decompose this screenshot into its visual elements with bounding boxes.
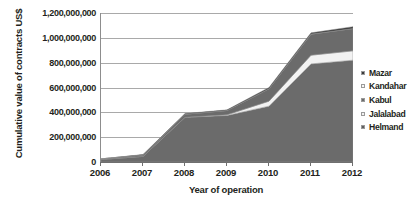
x-axis-tick bbox=[184, 162, 185, 166]
y-axis-tick-label: 0 bbox=[8, 157, 96, 167]
legend-item-label: Kabul bbox=[369, 95, 391, 105]
y-axis-tick-label: 800,000,000 bbox=[8, 58, 96, 68]
legend-item-jalalabad[interactable]: Jalalabad bbox=[361, 107, 417, 121]
y-axis-tick-label: 600,000,000 bbox=[8, 83, 96, 93]
x-axis-title: Year of operation bbox=[100, 184, 352, 195]
y-axis-tick-label: 400,000,000 bbox=[8, 107, 96, 117]
x-axis-tick bbox=[100, 162, 101, 166]
legend-swatch-icon bbox=[361, 125, 365, 129]
x-axis-tick bbox=[226, 162, 227, 166]
y-axis-tick-labels: 0200,000,000400,000,000600,000,000800,00… bbox=[8, 0, 96, 219]
y-axis-tick-label: 200,000,000 bbox=[8, 132, 96, 142]
area-series-layer bbox=[101, 13, 353, 162]
legend-item-label: Kandahar bbox=[369, 81, 406, 91]
legend-swatch-icon bbox=[361, 98, 365, 102]
legend-item-label: Jalalabad bbox=[369, 109, 405, 119]
y-axis-tick-label: 1,200,000,000 bbox=[8, 8, 96, 18]
x-axis-tick bbox=[310, 162, 311, 166]
legend-item-kandahar[interactable]: Kandahar bbox=[361, 80, 417, 94]
legend-swatch-icon bbox=[361, 112, 365, 116]
legend-item-helmand[interactable]: Helmand bbox=[361, 120, 417, 134]
x-axis-tick-labels: 2006200720082009201020112012 bbox=[0, 167, 417, 183]
chart-legend: MazarKandaharKabulJalalabadHelmand bbox=[361, 66, 417, 134]
legend-item-mazar[interactable]: Mazar bbox=[361, 66, 417, 80]
legend-swatch-icon bbox=[361, 84, 365, 88]
x-axis-tick bbox=[268, 162, 269, 166]
y-axis-tick-label: 1,000,000,000 bbox=[8, 33, 96, 43]
legend-swatch-icon bbox=[361, 71, 365, 75]
legend-item-kabul[interactable]: Kabul bbox=[361, 93, 417, 107]
stacked-area-chart: Cumulative value of contracts US$ 0200,0… bbox=[0, 0, 417, 219]
legend-item-label: Helmand bbox=[369, 122, 403, 132]
x-axis-tick bbox=[352, 162, 353, 166]
x-axis-tick-label: 2012 bbox=[322, 167, 382, 178]
legend-item-label: Mazar bbox=[369, 68, 392, 78]
x-axis-tick bbox=[142, 162, 143, 166]
plot-area bbox=[100, 13, 353, 163]
